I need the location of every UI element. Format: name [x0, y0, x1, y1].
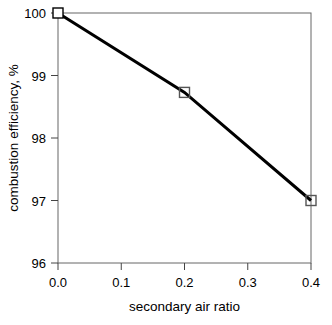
x-tick-label-0.0: 0.0 [49, 275, 67, 290]
data-point-marker-0 [53, 8, 63, 18]
y-tick-label-99: 99 [32, 69, 46, 84]
line-chart: 100 99 98 97 96 0.0 0.1 0.2 0.3 0.4 seco… [0, 0, 332, 325]
x-tick-label-0.3: 0.3 [239, 275, 257, 290]
y-axis-title: combustion efficiency, % [6, 64, 21, 211]
chart-figure: 100 99 98 97 96 0.0 0.1 0.2 0.3 0.4 seco… [0, 0, 332, 325]
x-tick-label-0.1: 0.1 [112, 275, 130, 290]
y-tick-label-98: 98 [32, 131, 46, 146]
y-tick-label-96: 96 [32, 256, 46, 271]
x-tick-label-0.2: 0.2 [175, 275, 193, 290]
x-tick-label-0.4: 0.4 [302, 275, 320, 290]
x-axis-title: secondary air ratio [129, 299, 240, 314]
y-tick-label-97: 97 [32, 194, 46, 209]
y-tick-label-100: 100 [24, 6, 46, 21]
